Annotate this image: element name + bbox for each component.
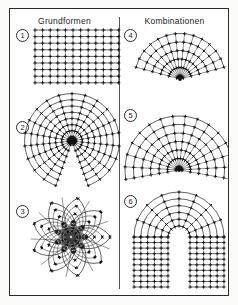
polar-grid-drawing bbox=[24, 93, 120, 189]
figure-plate: Grundformen Kombinationen 1 2 3 4 bbox=[0, 0, 238, 305]
diagram-canvas: Grundformen Kombinationen 1 2 3 4 bbox=[10, 9, 228, 295]
panel-polar-grid bbox=[24, 93, 120, 189]
panel-arch bbox=[131, 191, 227, 289]
panel-index-1: 1 bbox=[16, 29, 29, 42]
panel-fan-wide bbox=[128, 104, 228, 188]
fan-narrow-drawing bbox=[131, 27, 228, 95]
diagram-frame: Grundformen Kombinationen 1 2 3 4 bbox=[9, 8, 229, 296]
fan-wide-drawing bbox=[128, 104, 228, 188]
cartesian-grid-drawing bbox=[33, 28, 119, 88]
panel-fan-narrow bbox=[131, 27, 228, 95]
panel-rosette bbox=[22, 185, 120, 289]
panel-cartesian-grid bbox=[33, 28, 119, 88]
column-title-kombinationen: Kombinationen bbox=[119, 16, 228, 26]
arch-drawing bbox=[131, 191, 227, 289]
rosette-drawing bbox=[22, 185, 120, 289]
column-title-grundformen: Grundformen bbox=[10, 16, 119, 26]
